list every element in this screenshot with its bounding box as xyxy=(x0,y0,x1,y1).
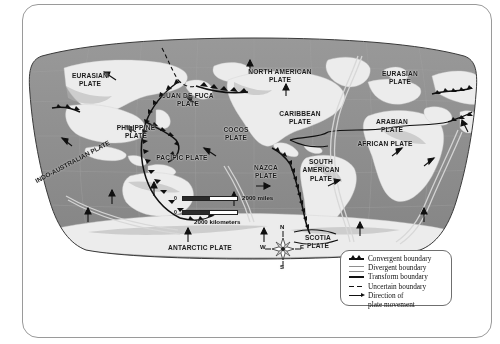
transform-boundary-icon xyxy=(346,272,368,281)
uncertain-boundary-icon xyxy=(346,282,368,291)
compass-east: E xyxy=(300,244,304,250)
plate-label-south-american: SOUTH AMERICAN PLATE xyxy=(290,158,352,183)
direction-arrow-icon xyxy=(346,291,368,300)
scale-zero-miles: 0 xyxy=(174,195,177,201)
legend-transform: Transform boundary xyxy=(346,272,447,281)
compass-west: W xyxy=(260,244,266,250)
legend-transform-label: Transform boundary xyxy=(368,272,428,281)
plate-label-african: AFRICAN PLATE xyxy=(346,140,424,148)
legend-uncertain-label: Uncertain boundary xyxy=(368,282,426,291)
plate-label-arabian: ARABIAN PLATE xyxy=(362,118,422,135)
scale-bar-miles xyxy=(182,196,238,201)
scale-miles-label: 2000 miles xyxy=(242,194,273,201)
legend-divergent-label: Divergent boundary xyxy=(368,263,426,272)
plate-label-juan-de-fuca: JUAN DE FUCA PLATE xyxy=(152,92,224,109)
convergent-boundary-icon xyxy=(346,254,368,263)
plate-label-pacific: PACIFIC PLATE xyxy=(144,154,220,162)
legend-convergent-label: Convergent boundary xyxy=(368,254,431,263)
plate-label-eurasian-west: EURASIAN PLATE xyxy=(62,72,118,89)
plate-label-eurasian-east: EURASIAN PLATE xyxy=(372,70,428,87)
legend-divergent: Divergent boundary xyxy=(346,263,447,272)
scale-zero-km: 0 xyxy=(174,209,177,215)
plate-label-north-american: NORTH AMERICAN PLATE xyxy=(236,68,324,85)
plate-label-antarctic: ANTARCTIC PLATE xyxy=(154,244,246,252)
plate-label-cocos: COCOS PLATE xyxy=(210,126,262,143)
compass-rose: N S E W xyxy=(260,224,306,270)
world-map: EURASIAN PLATE JUAN DE FUCA PLATE NORTH … xyxy=(28,36,480,266)
plate-label-caribbean: CARIBBEAN PLATE xyxy=(268,110,332,127)
divergent-boundary-icon xyxy=(346,263,368,272)
plate-label-philippine: PHILIPPINE PLATE xyxy=(104,124,168,141)
compass-south: S xyxy=(280,264,284,270)
legend-convergent: Convergent boundary xyxy=(346,254,447,263)
map-legend: Convergent boundary Divergent boundary T… xyxy=(340,250,452,306)
page-frame-right-mask xyxy=(492,4,500,338)
scale-bar-kilometers xyxy=(182,210,238,215)
legend-uncertain: Uncertain boundary xyxy=(346,282,447,291)
legend-direction-label: Direction of plate movement xyxy=(368,291,415,309)
legend-direction: Direction of plate movement xyxy=(346,291,447,309)
screenshot-root: EURASIAN PLATE JUAN DE FUCA PLATE NORTH … xyxy=(0,0,500,344)
plate-label-nazca: NAZCA PLATE xyxy=(240,164,292,181)
compass-north: N xyxy=(280,224,284,230)
scale-kilometers-label: 2000 kilometers xyxy=(194,218,240,225)
